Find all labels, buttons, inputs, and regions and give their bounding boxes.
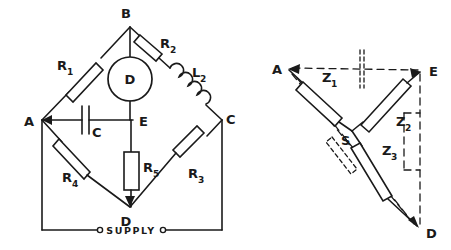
label-r2-sub: 2 bbox=[170, 45, 176, 55]
label-r5-sub: 5 bbox=[153, 169, 159, 179]
label-r3-sub: 3 bbox=[198, 175, 204, 185]
label-r1-letter: R bbox=[57, 58, 67, 73]
supply-label: SUPPLY bbox=[106, 225, 156, 236]
label-r2-letter: R bbox=[160, 36, 170, 51]
label-r1-sub: 1 bbox=[67, 67, 73, 77]
label-r4-letter: R bbox=[62, 170, 72, 185]
label-l2-sub: 2 bbox=[200, 74, 206, 84]
circuit-svg: B A C D E D R 1 R 2 L 2 R 3 R 4 bbox=[0, 0, 451, 250]
label-r4-sub: 4 bbox=[72, 179, 78, 189]
node-label-e: E bbox=[139, 114, 148, 129]
label-capacitor-c: C bbox=[92, 125, 102, 140]
star-node-label-e: E bbox=[429, 64, 438, 79]
star-node-label-d: D bbox=[426, 226, 437, 241]
supply-terminal-left[interactable] bbox=[97, 227, 102, 232]
label-r5-letter: R bbox=[143, 160, 153, 175]
node-label-c: C bbox=[226, 112, 236, 127]
star-node-label-s: S bbox=[341, 133, 350, 148]
node-label-b: B bbox=[121, 6, 131, 21]
node-label-a: A bbox=[24, 114, 34, 129]
label-z3-sub: 3 bbox=[391, 152, 397, 162]
label-z1-sub: 1 bbox=[331, 79, 337, 89]
label-z2-sub: 2 bbox=[405, 123, 411, 133]
detector-label: D bbox=[125, 72, 136, 87]
supply-terminal-right[interactable] bbox=[160, 227, 165, 232]
resistor-r5 bbox=[124, 152, 139, 190]
star-node-label-a: A bbox=[272, 62, 282, 77]
circuit-figure: B A C D E D R 1 R 2 L 2 R 3 R 4 bbox=[0, 0, 451, 250]
label-r3-letter: R bbox=[188, 166, 198, 181]
